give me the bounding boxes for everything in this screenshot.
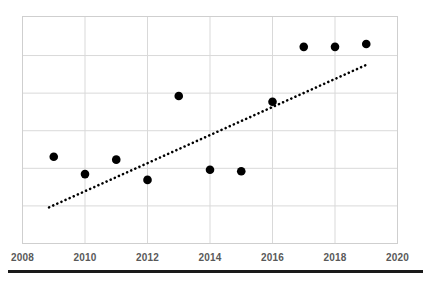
data-point	[331, 43, 340, 52]
bottom-rule	[8, 270, 423, 273]
data-point	[268, 98, 277, 107]
scatter-chart: 2008201020122014201620182020	[0, 0, 431, 285]
data-point	[143, 176, 152, 185]
data-point	[112, 155, 121, 164]
data-point	[206, 165, 215, 174]
data-point	[174, 92, 183, 101]
data-point	[237, 167, 246, 176]
data-point	[299, 43, 308, 52]
data-point	[49, 152, 58, 161]
chart-canvas	[0, 0, 431, 285]
data-point	[362, 40, 371, 49]
data-point	[81, 170, 90, 179]
